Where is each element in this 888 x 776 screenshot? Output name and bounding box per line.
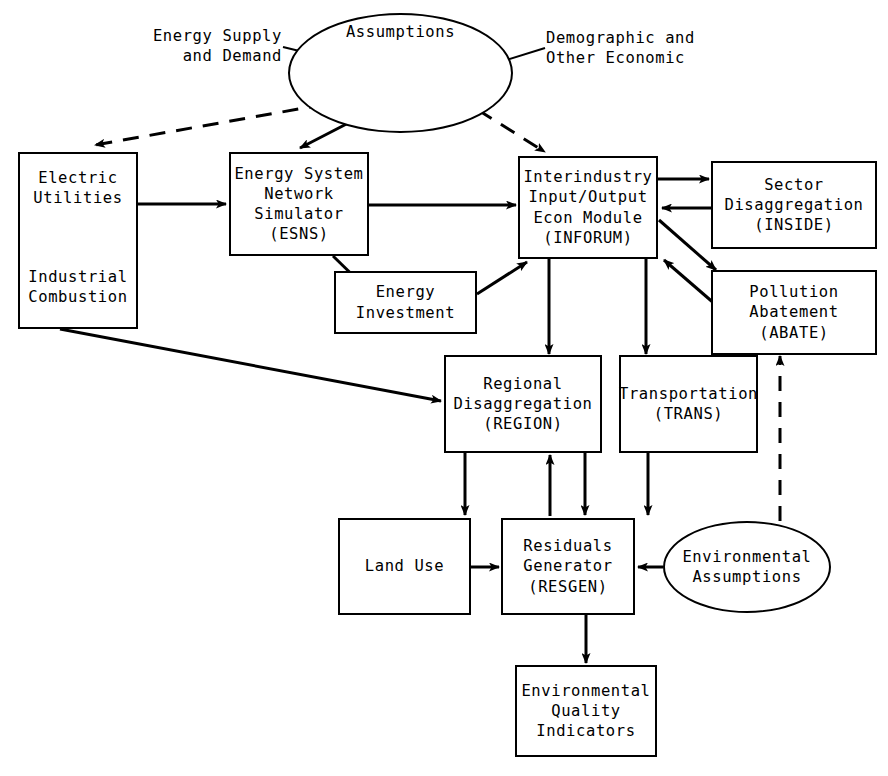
- node-abate-label: Pollution Abatement (ABATE): [749, 282, 838, 342]
- node-inforum-label: Interindustry Input/Output Econ Module (…: [523, 167, 652, 248]
- edge-energy-investment-inforum: [477, 262, 527, 294]
- node-trans-label: Transportation (TRANS): [619, 384, 758, 424]
- node-land-use-label: Land Use: [365, 556, 444, 576]
- node-region[interactable]: Regional Disaggregation (REGION): [444, 355, 602, 453]
- node-environmental-assumptions-label: Environmental Assumptions: [682, 547, 811, 587]
- node-inside[interactable]: Sector Disaggregation (INSIDE): [711, 161, 877, 249]
- node-abate[interactable]: Pollution Abatement (ABATE): [711, 270, 877, 355]
- node-assumptions-label: Assumptions: [290, 23, 511, 41]
- node-esns-label: Energy System Network Simulator (ESNS): [234, 164, 363, 245]
- node-environmental-assumptions[interactable]: Environmental Assumptions: [663, 521, 831, 613]
- node-trans[interactable]: Transportation (TRANS): [619, 355, 758, 453]
- label-demographic-and-other-economic: Demographic and Other Economic: [546, 28, 746, 69]
- node-electric-utilities-label: Electric Utilities: [33, 168, 122, 208]
- label-energy-supply-and-demand: Energy Supply and Demand: [112, 26, 282, 67]
- edge-electric-utilities-region: [60, 329, 441, 401]
- node-energy-investment-label: Energy Investment: [356, 282, 455, 322]
- node-industrial-combustion-label: Industrial Combustion: [28, 267, 127, 307]
- node-region-label: Regional Disaggregation (REGION): [453, 374, 592, 434]
- node-eqi-label: Environmental Quality Indicators: [521, 681, 650, 741]
- node-resgen-label: Residuals Generator (RESGEN): [523, 536, 612, 596]
- node-inforum[interactable]: Interindustry Input/Output Econ Module (…: [518, 156, 658, 259]
- node-electric-utilities[interactable]: Electric Utilities Industrial Combustion: [18, 152, 138, 329]
- diagram-canvas: Energy Supply and Demand Demographic and…: [0, 0, 888, 776]
- node-assumptions[interactable]: Assumptions: [288, 13, 513, 133]
- node-esns[interactable]: Energy System Network Simulator (ESNS): [229, 152, 369, 256]
- node-energy-investment[interactable]: Energy Investment: [334, 271, 477, 334]
- node-inside-label: Sector Disaggregation (INSIDE): [724, 175, 863, 235]
- node-land-use[interactable]: Land Use: [338, 518, 471, 615]
- node-resgen[interactable]: Residuals Generator (RESGEN): [501, 518, 635, 615]
- edge-assumptions-inforum: [478, 110, 545, 152]
- node-eqi[interactable]: Environmental Quality Indicators: [515, 665, 657, 757]
